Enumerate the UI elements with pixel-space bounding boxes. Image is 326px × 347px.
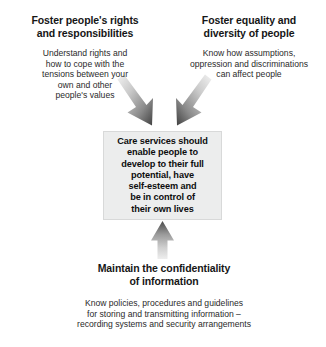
node-rights-body: Understand rights and how to cope with t…: [4, 48, 166, 101]
node-maintain-confidentiality: Maintain the confidentiality of informat…: [33, 262, 295, 330]
central-statement-text: Care services should enable people to de…: [114, 136, 210, 214]
node-rights-title: Foster people's rights and responsibilit…: [4, 14, 166, 39]
node-foster-rights: Foster people's rights and responsibilit…: [4, 14, 166, 101]
node-equality-body: Know how assumptions, oppression and dis…: [176, 48, 322, 80]
diagram-canvas: Foster people's rights and responsibilit…: [0, 0, 326, 347]
arrow-confidentiality-to-center: [151, 221, 174, 259]
node-foster-equality: Foster equality and diversity of people …: [176, 14, 322, 80]
node-confidentiality-title: Maintain the confidentiality of informat…: [33, 262, 295, 287]
arrow-equality-to-center: [176, 75, 212, 126]
central-statement-box: Care services should enable people to de…: [103, 131, 222, 220]
node-equality-title: Foster equality and diversity of people: [176, 14, 322, 39]
node-confidentiality-body: Know policies, procedures and guidelines…: [33, 298, 295, 330]
